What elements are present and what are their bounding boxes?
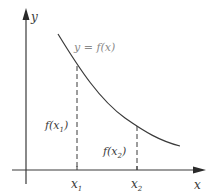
f-x2-label: f(x2)	[102, 145, 126, 160]
x1-tick-label: x1	[71, 177, 82, 193]
x2-tick-label: x2	[131, 177, 143, 193]
y-axis-label: y	[30, 10, 38, 24]
y-axis-arrow-icon	[23, 8, 30, 20]
x-axis-arrow-icon	[193, 167, 206, 174]
x-axis-label: x	[194, 178, 201, 192]
curve-label: y = f(x)	[73, 41, 115, 54]
function-graph: y x y = f(x) f(x1) f(x2) x1 x2	[0, 0, 210, 195]
f-x1-label: f(x1)	[44, 119, 68, 134]
